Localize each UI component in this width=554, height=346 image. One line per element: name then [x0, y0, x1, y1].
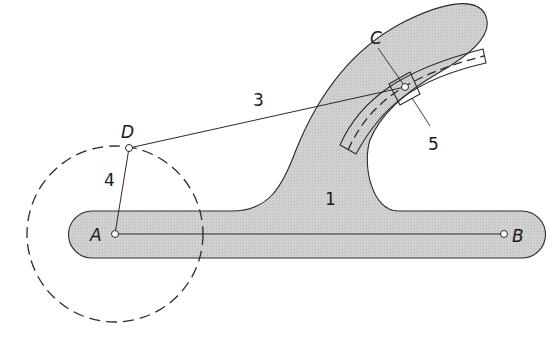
label-b: B	[512, 226, 524, 246]
joint-c	[402, 84, 409, 91]
label-link-3: 3	[253, 90, 264, 110]
mechanism-diagram: A B C D 1 3 4 5	[0, 0, 554, 346]
joint-a	[112, 231, 119, 238]
label-c: C	[370, 28, 382, 48]
joint-d	[126, 145, 133, 152]
label-link-5: 5	[428, 134, 439, 154]
leader-5	[412, 98, 430, 126]
link-1-body	[68, 4, 545, 258]
label-link-4: 4	[104, 170, 115, 190]
label-link-1: 1	[325, 189, 336, 209]
label-d: D	[121, 122, 134, 142]
joint-b	[501, 231, 508, 238]
label-a: A	[89, 225, 102, 245]
